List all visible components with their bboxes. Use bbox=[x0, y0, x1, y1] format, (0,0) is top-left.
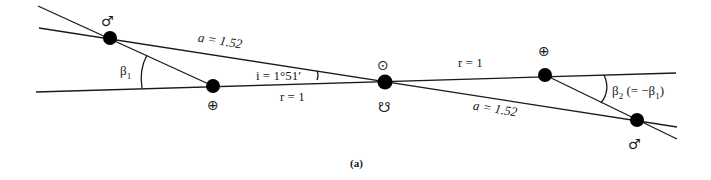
beta2-arc bbox=[601, 75, 607, 103]
inclination-label: i = 1°51′ bbox=[256, 69, 301, 82]
earth-symbol-icon: ⊕ bbox=[538, 44, 550, 58]
mars-symbol-icon: ♂ bbox=[101, 14, 114, 28]
earth-orbit-label-left: r = 1 bbox=[280, 90, 305, 103]
sun-node bbox=[378, 75, 393, 90]
beta1-arc bbox=[141, 55, 147, 88]
earth-position-2 bbox=[538, 68, 552, 82]
figure-caption: (a) bbox=[350, 158, 363, 169]
descending-node-icon: ☋ bbox=[378, 100, 390, 114]
mars-position-1 bbox=[103, 31, 117, 45]
earth-symbol-icon: ⊕ bbox=[207, 98, 219, 112]
earth-orbit-line bbox=[36, 73, 676, 92]
earth-position-1 bbox=[206, 79, 220, 93]
inclination-arc bbox=[317, 71, 318, 80]
mars-position-2 bbox=[630, 113, 644, 127]
mars-orbit-line bbox=[39, 28, 677, 127]
sun-symbol-icon: ⊙ bbox=[377, 58, 389, 72]
mars-symbol-icon: ♂ bbox=[628, 137, 641, 151]
beta2-label: β2 (= −β1) bbox=[612, 84, 664, 101]
earth-orbit-label-right: r = 1 bbox=[458, 56, 483, 69]
beta1-label: β1 bbox=[120, 64, 131, 81]
